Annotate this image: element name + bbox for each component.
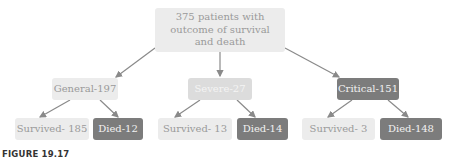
outcome-label: Survived- 3: [310, 123, 368, 136]
outcome-label: Died-14: [243, 123, 283, 136]
outcome-label: Survived- 185: [17, 123, 88, 136]
outcome-label: Died-12: [98, 123, 138, 136]
category-node-severe: Severe-27: [188, 78, 252, 100]
outcome-node-severe-died: Died-14: [237, 118, 288, 140]
outcome-node-general-died: Died-12: [93, 118, 143, 140]
outcome-node-general-survived: Survived- 185: [15, 118, 89, 140]
outcome-node-severe-survived: Survived- 13: [158, 118, 232, 140]
figure-caption: FIGURE 19.17: [2, 149, 69, 159]
outcome-node-critical-died: Died-148: [380, 118, 442, 140]
outcome-label: Survived- 13: [163, 123, 227, 136]
arrow-severe-died: [237, 100, 255, 117]
arrow-critical-survived: [328, 100, 352, 117]
arrow-critical-died: [388, 100, 408, 117]
outcome-label: Died-148: [388, 123, 434, 136]
category-label: General-197: [54, 83, 117, 96]
root-node: 375 patients with outcome of survival an…: [155, 8, 285, 52]
arrow-root-critical: [285, 48, 339, 77]
category-node-general: General-197: [52, 78, 118, 100]
arrow-severe-survived: [175, 100, 200, 117]
arrow-general-survived: [40, 100, 70, 117]
category-label: Critical-151: [338, 83, 398, 96]
arrow-root-general: [116, 48, 155, 77]
outcome-node-critical-survived: Survived- 3: [302, 118, 375, 140]
arrow-general-died: [100, 100, 118, 117]
root-node-label: 375 patients with outcome of survival an…: [161, 11, 279, 49]
category-node-critical: Critical-151: [337, 78, 399, 100]
category-label: Severe-27: [194, 83, 245, 96]
